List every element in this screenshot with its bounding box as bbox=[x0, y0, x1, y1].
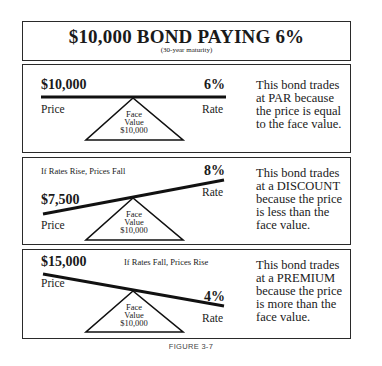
figure-caption: FIGURE 3-7 bbox=[0, 342, 382, 351]
title-box: $10,000 BOND PAYING 6% (30-year maturity… bbox=[22, 21, 351, 61]
panel-description: This bond trades at a DISCOUNT because t… bbox=[256, 167, 342, 232]
rate-value: 6% bbox=[204, 78, 225, 92]
scenario-label: If Rates Fall, Prices Rise bbox=[124, 258, 208, 267]
figure-title: $10,000 BOND PAYING 6% bbox=[23, 27, 350, 46]
fulcrum-label: Face Value $10,000 bbox=[104, 210, 164, 234]
rate-label: Rate bbox=[202, 312, 223, 324]
price-label: Price bbox=[41, 219, 65, 231]
panel-discount: If Rates Rise, Prices Fall 8% Rate $7,50… bbox=[22, 157, 351, 245]
price-value: $15,000 bbox=[41, 255, 87, 269]
price-label: Price bbox=[41, 103, 65, 115]
rate-value: 4% bbox=[204, 290, 225, 304]
price-value: $10,000 bbox=[41, 78, 87, 92]
panel-par: $10,000 6% Price Rate Face Value $10,000… bbox=[22, 64, 351, 153]
panel-description: This bond trades at a PREMIUM because th… bbox=[256, 259, 342, 324]
scenario-label: If Rates Rise, Prices Fall bbox=[41, 167, 125, 176]
rate-label: Rate bbox=[202, 186, 223, 198]
figure-subtitle: (30-year maturity) bbox=[23, 46, 350, 54]
panel-premium: $15,000 If Rates Fall, Prices Rise Price… bbox=[22, 249, 351, 339]
rate-label: Rate bbox=[202, 103, 223, 115]
fulcrum-label: Face Value $10,000 bbox=[104, 110, 164, 134]
price-value: $7,500 bbox=[41, 193, 80, 207]
rate-value: 8% bbox=[204, 164, 225, 178]
panel-description: This bond trades at PAR because the pric… bbox=[256, 79, 341, 131]
price-label: Price bbox=[41, 277, 65, 289]
fulcrum-label: Face Value $10,000 bbox=[104, 303, 164, 327]
